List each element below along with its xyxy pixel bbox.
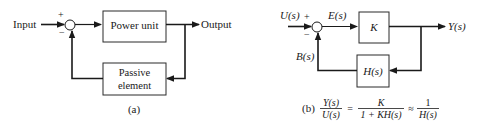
output-label-y: Y(s) <box>448 20 466 33</box>
approx-sign: ≈ <box>408 103 414 114</box>
passive-label-line2: element <box>118 80 151 91</box>
mid-numerator: K <box>377 97 386 108</box>
transfer-function-formula: (b) Y(s) U(s) = K 1 + KH(s) ≈ 1 H(s) <box>302 97 439 121</box>
feedback-return-b <box>318 33 357 71</box>
block-diagrams: Input + − Power unit Output Passive elem… <box>0 0 480 125</box>
gain-label: K <box>369 21 378 33</box>
power-unit-label: Power unit <box>111 19 159 31</box>
error-label: E(s) <box>327 9 347 22</box>
lhs-denominator: U(s) <box>322 109 340 121</box>
diagram-a: Input + − Power unit Output Passive elem… <box>13 9 232 116</box>
equals-sign: = <box>347 103 353 114</box>
feedback-path-b <box>390 27 421 71</box>
passive-label-line1: Passive <box>119 67 151 78</box>
summing-junction-b <box>312 22 322 32</box>
rhs-numerator: 1 <box>426 97 431 108</box>
summing-junction <box>65 20 75 30</box>
feedback-signal-label: B(s) <box>296 50 315 63</box>
feedback-block-label: H(s) <box>362 65 383 78</box>
mid-denominator: 1 + KH(s) <box>360 109 402 121</box>
input-label-u: U(s) <box>280 9 300 22</box>
plus-sign-b: + <box>304 11 310 22</box>
rhs-denominator: H(s) <box>418 109 437 121</box>
diagram-b: U(s) + − E(s) K Y(s) H(s) B(s) (b) Y(s) … <box>280 9 466 121</box>
feedback-path-a <box>167 25 185 79</box>
input-label: Input <box>13 18 36 30</box>
caption-a: (a) <box>128 103 141 116</box>
minus-sign: − <box>59 27 65 38</box>
caption-b: (b) <box>302 102 315 115</box>
output-label: Output <box>201 18 232 30</box>
minus-sign-b: − <box>304 29 310 40</box>
lhs-numerator: Y(s) <box>323 97 340 109</box>
feedback-return-a <box>72 31 103 79</box>
plus-sign: + <box>58 9 64 20</box>
